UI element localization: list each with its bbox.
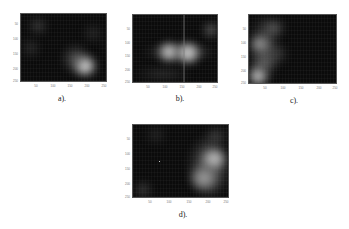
x-tick: 100 — [48, 84, 58, 88]
heatmap-d — [132, 124, 229, 198]
y-tick: 150 — [8, 52, 18, 56]
heatmap-c — [248, 14, 337, 84]
y-tick: 100 — [120, 152, 130, 156]
heatmap-a — [20, 13, 107, 82]
y-tick: 150 — [120, 54, 130, 58]
caption-c: c). — [279, 96, 309, 105]
x-tick: 100 — [164, 200, 174, 204]
y-tick: 50 — [120, 27, 130, 31]
x-tick: 150 — [184, 200, 194, 204]
x-tick: 200 — [82, 84, 92, 88]
y-tick: 200 — [8, 67, 18, 71]
caption-a: a). — [47, 94, 77, 103]
y-tick: 150 — [120, 167, 130, 171]
y-tick: 100 — [8, 37, 18, 41]
x-tick: 200 — [194, 85, 204, 89]
y-tick: 250 — [120, 195, 130, 199]
y-tick: 200 — [236, 69, 246, 73]
y-tick: 250 — [236, 81, 246, 85]
x-tick: 100 — [278, 86, 288, 90]
y-tick: 100 — [120, 41, 130, 45]
y-tick: 200 — [120, 68, 130, 72]
y-tick: 50 — [120, 137, 130, 141]
x-tick: 250 — [99, 84, 109, 88]
caption-d: d). — [168, 210, 198, 219]
x-tick: 200 — [314, 86, 324, 90]
x-tick: 200 — [203, 200, 213, 204]
x-tick: 50 — [260, 86, 270, 90]
y-tick: 250 — [8, 79, 18, 83]
x-tick: 50 — [31, 84, 41, 88]
x-tick: 150 — [296, 86, 306, 90]
y-tick: 200 — [120, 182, 130, 186]
y-tick: 150 — [236, 55, 246, 59]
x-tick: 50 — [143, 85, 153, 89]
y-tick: 50 — [236, 27, 246, 31]
y-tick: 250 — [120, 80, 130, 84]
x-tick: 100 — [160, 85, 170, 89]
heatmap-b — [132, 14, 218, 83]
x-tick: 50 — [145, 200, 155, 204]
x-tick: 250 — [221, 200, 231, 204]
x-tick: 150 — [177, 85, 187, 89]
y-tick: 100 — [236, 41, 246, 45]
y-tick: 50 — [8, 22, 18, 26]
x-tick: 250 — [210, 85, 220, 89]
x-tick: 150 — [65, 84, 75, 88]
caption-b: b). — [165, 94, 195, 103]
x-tick: 250 — [330, 86, 340, 90]
